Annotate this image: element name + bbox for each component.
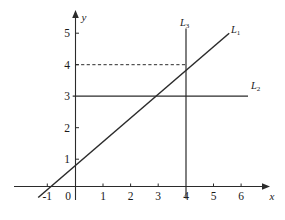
y-tick-label: 3 [64,90,70,102]
y-tick-label: 2 [64,122,70,134]
coordinate-plane-svg: -1 0 1 2 3 4 5 6 1 2 3 4 5 x y L1 [0,0,285,220]
x-tick-label: 5 [211,190,217,202]
series-label-l1: L1 [230,24,241,37]
y-tick-label: 1 [64,153,70,165]
graph-figure: -1 0 1 2 3 4 5 6 1 2 3 4 5 x y L1 [0,0,285,220]
x-tick-label: 0 [65,190,71,202]
x-tick-label: 2 [128,190,134,202]
x-axis-label: x [269,190,275,202]
x-axis-arrow-icon [262,183,270,190]
y-axis-arrow-icon [72,10,79,18]
y-tick-label: 5 [64,27,70,39]
y-tick-label: 4 [64,59,70,71]
x-tick-label: 6 [238,190,244,202]
axes-group [14,10,270,200]
y-axis-label: y [81,11,87,23]
series-label-l2: L2 [250,80,261,93]
x-tick-labels: -1 0 1 2 3 4 5 6 [43,190,245,202]
series-label-l3: L3 [179,17,190,30]
x-tick-label: 1 [100,190,106,202]
y-tick-labels: 1 2 3 4 5 [64,27,70,165]
x-tick-label: 3 [155,190,161,202]
